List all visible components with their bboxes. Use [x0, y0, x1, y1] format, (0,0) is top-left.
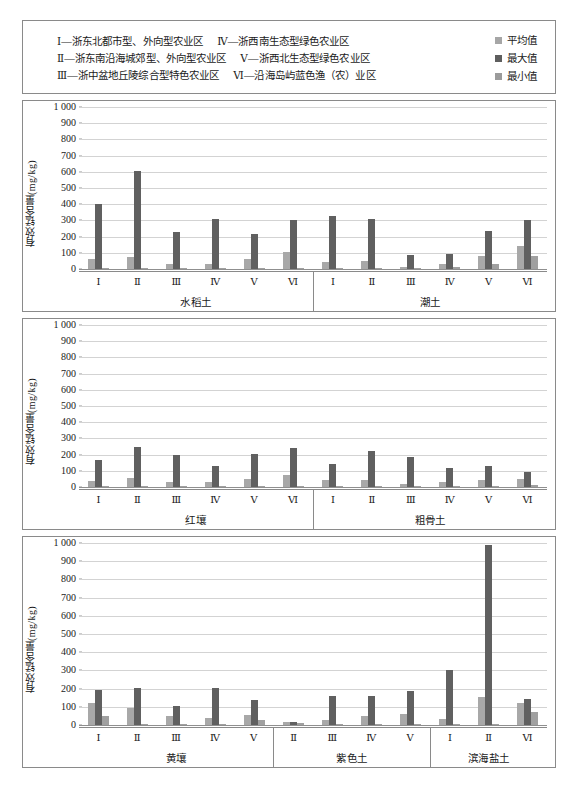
- bar-maximum: [95, 690, 102, 725]
- chart-panel-3: 有效锰含量(mg/kg)0100200300400500600700800900…: [22, 536, 556, 768]
- bar-maximum: [95, 460, 102, 487]
- bar-maximum: [134, 447, 141, 488]
- bar-groups: [79, 107, 547, 269]
- category-label: Ⅳ: [195, 732, 234, 743]
- region-code-row: Ⅰ—浙东北都市型、外向型农业区 Ⅳ—浙西南生态型绿色农业区: [57, 34, 376, 49]
- category-label: Ⅳ: [196, 276, 235, 287]
- category-axis: ⅠⅡⅢⅣⅤⅥ红壤ⅠⅡⅢⅣⅤⅥ粗骨土: [79, 489, 547, 529]
- y-axis-tick-label: 200: [61, 232, 76, 242]
- bar-average: [478, 697, 485, 725]
- bar-minimum: [141, 268, 148, 269]
- region-code-4: Ⅳ—浙西南生态型绿色农业区: [217, 34, 349, 49]
- bar-cluster: [127, 543, 148, 725]
- y-axis-tick-label: 800: [61, 352, 76, 362]
- bar-cluster: [322, 107, 343, 269]
- bar-maximum: [134, 171, 141, 269]
- bar-minimum: [258, 486, 265, 487]
- soil-type-label: 黄壤: [79, 747, 273, 767]
- category-label: Ⅲ: [313, 732, 352, 743]
- bar-average: [439, 719, 446, 725]
- bar-minimum: [219, 268, 226, 269]
- bar-maximum: [329, 216, 336, 269]
- category-group: ⅠⅡⅢⅣⅤⅥ粗骨土: [314, 490, 548, 529]
- y-axis-tick-label: 200: [61, 450, 76, 460]
- bar-maximum: [485, 466, 492, 487]
- bar-cluster: [283, 543, 304, 725]
- bar-maximum: [368, 696, 375, 725]
- category-row: ⅠⅡⅢⅣⅤⅥ: [314, 272, 548, 291]
- bar-minimum: [102, 716, 109, 725]
- bar-cluster: [322, 325, 343, 487]
- y-axis-tick-label: 400: [61, 417, 76, 427]
- category-axis: ⅠⅡⅢⅣⅤ黄壤ⅡⅢⅣⅤ紫色土ⅠⅡⅥ滨海盐土: [79, 727, 547, 767]
- category-label: Ⅲ: [157, 732, 196, 743]
- category-label: Ⅱ: [469, 732, 508, 743]
- bar-minimum: [102, 268, 109, 269]
- bar-average: [361, 716, 368, 725]
- category-label: Ⅴ: [391, 732, 430, 743]
- soil-type-label: 粗骨土: [314, 509, 548, 529]
- y-axis-tick-label: 400: [61, 199, 76, 209]
- bar-maximum: [524, 699, 531, 725]
- bar-maximum: [290, 220, 297, 269]
- bar-maximum: [212, 688, 219, 725]
- category-label: Ⅰ: [79, 276, 118, 287]
- bar-minimum: [141, 486, 148, 487]
- bar-minimum: [414, 724, 421, 725]
- bar-maximum: [329, 696, 336, 725]
- bar-group: [430, 543, 547, 725]
- bar-minimum: [336, 486, 343, 487]
- bar-cluster: [439, 325, 460, 487]
- category-label: Ⅱ: [352, 276, 391, 287]
- bar-maximum: [95, 204, 102, 269]
- legend-swatch-maximum-icon: [495, 55, 502, 62]
- bar-maximum: [251, 234, 258, 269]
- bar-minimum: [180, 268, 187, 269]
- category-group: ⅠⅡⅥ滨海盐土: [431, 728, 548, 767]
- y-axis-tick-label: 600: [61, 167, 76, 177]
- bar-maximum: [212, 466, 219, 487]
- bar-average: [517, 246, 524, 269]
- category-label: Ⅰ: [79, 732, 118, 743]
- bar-cluster: [400, 543, 421, 725]
- legend-swatch-average-icon: [495, 37, 502, 44]
- bar-average: [400, 267, 407, 269]
- bar-cluster: [205, 325, 226, 487]
- category-label: Ⅵ: [508, 494, 547, 505]
- x-axis-line: [79, 725, 547, 726]
- region-code-2: Ⅱ—浙东南沿海城郊型、外向型农业区: [57, 51, 226, 66]
- bar-cluster: [283, 107, 304, 269]
- bar-minimum: [297, 723, 304, 725]
- series-legend: 平均值 最大值 最小值: [495, 30, 545, 87]
- y-axis-tick-label: 300: [61, 215, 76, 225]
- bar-minimum: [180, 486, 187, 487]
- category-group: ⅠⅡⅢⅣⅤ黄壤: [79, 728, 274, 767]
- bar-maximum: [290, 448, 297, 487]
- legend-item-maximum: 最大值: [495, 52, 537, 65]
- bar-cluster: [244, 325, 265, 487]
- category-label: Ⅰ: [79, 494, 118, 505]
- category-row: ⅠⅡⅢⅣⅤ: [79, 728, 273, 747]
- y-axis-ticks: 01002003004005006007008009001 000: [39, 101, 79, 311]
- y-axis-label: 有效锰含量(mg/kg): [23, 319, 39, 529]
- category-row: ⅠⅡⅥ: [431, 728, 548, 747]
- category-label: Ⅳ: [430, 276, 469, 287]
- plot-area: [79, 543, 547, 725]
- bar-average: [205, 264, 212, 269]
- bar-minimum: [414, 486, 421, 487]
- bar-cluster: [205, 107, 226, 269]
- bar-cluster: [88, 543, 109, 725]
- bar-maximum: [524, 220, 531, 269]
- bar-maximum: [407, 255, 414, 269]
- y-axis-label: 有效锰含量(mg/kg): [23, 537, 39, 767]
- chart-page: Ⅰ—浙东北都市型、外向型农业区 Ⅳ—浙西南生态型绿色农业区 Ⅱ—浙东南沿海城郊型…: [0, 0, 578, 787]
- bar-maximum: [173, 232, 180, 269]
- bar-average: [322, 480, 329, 487]
- y-axis-tick-label: 0: [71, 720, 76, 730]
- bar-cluster: [166, 543, 187, 725]
- bar-cluster: [283, 325, 304, 487]
- bar-maximum: [173, 455, 180, 487]
- bar-average: [127, 478, 134, 487]
- bar-maximum: [368, 219, 375, 269]
- y-axis-tick-label: 1 000: [54, 320, 77, 330]
